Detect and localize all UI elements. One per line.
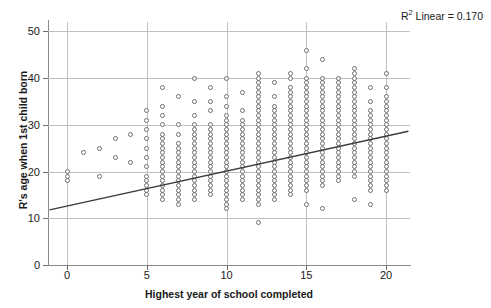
y-axis-title-text: R's age when 1st child born	[17, 71, 29, 209]
x-axis-line	[47, 265, 411, 266]
x-tick-label-20: 20	[371, 270, 401, 281]
x-tick-label-15: 15	[291, 270, 321, 281]
linear-fit-line	[48, 22, 410, 265]
x-axis-title: Highest year of school completed	[48, 288, 410, 300]
x-tick-label-10: 10	[212, 270, 242, 281]
x-tick-label-5: 5	[132, 270, 162, 281]
x-tick-label-0: 0	[52, 270, 82, 281]
y-axis-title: R's age when 1st child born	[16, 40, 30, 240]
top-crop-strip	[0, 0, 491, 3]
r-squared-annotation: R2 Linear = 0.170	[401, 8, 483, 22]
y-tick-label-0: 0	[6, 260, 40, 270]
r-squared-value: Linear = 0.170	[413, 10, 483, 22]
plot-area	[48, 22, 410, 265]
scatter-plot-figure: R2 Linear = 0.170 01020304050 05101520 R…	[0, 0, 491, 308]
y-tick-mark-0	[43, 265, 48, 266]
y-tick-label-50: 50	[6, 26, 40, 36]
